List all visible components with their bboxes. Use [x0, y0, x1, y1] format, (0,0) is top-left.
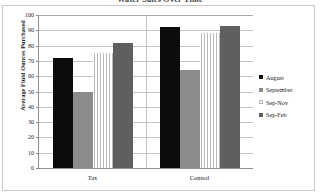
y-tick-label: 80	[28, 43, 34, 49]
legend-item[interactable]: Sep-Nov	[259, 96, 317, 109]
legend-swatch-icon	[259, 113, 263, 117]
y-axis-title: Average Fluid Ounces Purchased	[19, 0, 26, 136]
y-tick-label: 50	[28, 89, 34, 95]
y-tick-label: 30	[28, 119, 34, 125]
bar[interactable]	[53, 58, 73, 168]
legend-item[interactable]: August	[259, 71, 317, 84]
y-tick-label: 70	[28, 58, 34, 64]
bar[interactable]	[220, 26, 240, 168]
legend-label: Sep-Nov	[266, 99, 288, 106]
y-tick-label: 10	[28, 150, 34, 156]
y-tick-label: 20	[28, 134, 34, 140]
y-tick-label: 90	[28, 27, 34, 33]
bar[interactable]	[180, 70, 200, 168]
bar[interactable]	[73, 92, 93, 169]
y-tick-label: 100	[25, 12, 34, 18]
chart-title: Water Sales Over Time	[0, 0, 320, 4]
chart-figure: Water Sales Over Time Average Fluid Ounc…	[0, 0, 320, 196]
plot-area: 0102030405060708090100 TaxControl	[38, 15, 253, 169]
x-tick-label: Tax	[39, 174, 146, 181]
bar-group: Tax	[39, 15, 146, 168]
legend-label: August	[266, 74, 284, 81]
y-tick-label: 40	[28, 104, 34, 110]
bar[interactable]	[200, 33, 220, 168]
bar-group: Control	[146, 15, 253, 168]
y-tick-label: 60	[28, 73, 34, 79]
y-tick-mark	[36, 168, 39, 169]
chart-legend: AugustSeptemberSep-NovSep-Feb	[259, 71, 317, 121]
bar[interactable]	[93, 53, 113, 168]
legend-swatch-icon	[259, 100, 263, 104]
legend-swatch-icon	[259, 75, 263, 79]
y-tick-label: 0	[31, 165, 34, 171]
bar[interactable]	[160, 27, 180, 168]
legend-label: Sep-Feb	[266, 111, 287, 118]
bar[interactable]	[113, 43, 133, 168]
x-tick-label: Control	[146, 174, 253, 181]
legend-item[interactable]: September	[259, 84, 317, 97]
legend-swatch-icon	[259, 88, 263, 92]
legend-label: September	[266, 86, 292, 93]
legend-item[interactable]: Sep-Feb	[259, 109, 317, 122]
